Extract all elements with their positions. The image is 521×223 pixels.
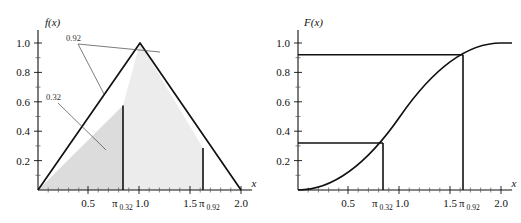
annotation-092: 0.92 [66, 33, 81, 43]
svg-text:0.92: 0.92 [467, 203, 480, 212]
cdf-ytick-04: 0.4 [276, 125, 290, 137]
cdf-svg: 0.2 0.4 0.6 0.8 1.0 0.5 1.0 1.5 2.0 π 0.… [260, 0, 521, 223]
cdf-quantile-label-032: π 0.32 [372, 197, 393, 212]
cdf-xtick-10: 1.0 [395, 197, 409, 209]
pdf-ytick-10: 1.0 [16, 37, 30, 49]
cdf-ytick-08: 0.8 [276, 66, 290, 78]
svg-text:π: π [372, 197, 378, 209]
svg-text:π: π [459, 197, 465, 209]
svg-text:0.32: 0.32 [380, 203, 393, 212]
cdf-x-axis-label: x [511, 177, 517, 189]
cdf-xtick-15: 1.5 [443, 197, 457, 209]
pdf-ytick-04: 0.4 [16, 125, 30, 137]
pdf-xtick-05: 0.5 [81, 197, 95, 209]
shaded-region-lower [38, 106, 123, 190]
pdf-quantile-label-092: π 0.92 [199, 197, 220, 212]
pdf-ytick-02: 0.2 [16, 155, 30, 167]
pdf-xtick-15: 1.5 [183, 197, 197, 209]
cdf-xtick-05: 0.5 [341, 197, 355, 209]
svg-text:π: π [199, 197, 205, 209]
cdf-ytick-10: 1.0 [276, 37, 290, 49]
pdf-x-axis-label: x [251, 177, 257, 189]
cdf-ytick-06: 0.6 [276, 96, 290, 108]
pdf-panel: 0.92 0.32 0.2 0.4 0.6 0.8 1.0 0.5 1.0 1.… [0, 0, 260, 223]
annotation-032: 0.32 [46, 92, 61, 102]
svg-text:0.92: 0.92 [207, 203, 220, 212]
pdf-ytick-06: 0.6 [16, 96, 30, 108]
cdf-panel: 0.2 0.4 0.6 0.8 1.0 0.5 1.0 1.5 2.0 π 0.… [260, 0, 521, 223]
pdf-svg: 0.92 0.32 0.2 0.4 0.6 0.8 1.0 0.5 1.0 1.… [0, 0, 260, 223]
pdf-quantile-label-032: π 0.32 [112, 197, 133, 212]
cdf-y-axis-label: F(x) [303, 16, 323, 29]
svg-text:0.32: 0.32 [120, 203, 133, 212]
pdf-y-axis-label: f(x) [45, 16, 61, 29]
pdf-xtick-10: 1.0 [135, 197, 149, 209]
cdf-quantile-label-092: π 0.92 [459, 197, 480, 212]
pdf-xtick-20: 2.0 [234, 197, 248, 209]
cdf-ytick-02: 0.2 [276, 155, 290, 167]
svg-text:π: π [112, 197, 118, 209]
figure-two-panel-pdf-cdf: 0.92 0.32 0.2 0.4 0.6 0.8 1.0 0.5 1.0 1.… [0, 0, 521, 223]
cdf-xtick-20: 2.0 [494, 197, 508, 209]
cdf-curve [298, 43, 512, 190]
pdf-ytick-08: 0.8 [16, 66, 30, 78]
